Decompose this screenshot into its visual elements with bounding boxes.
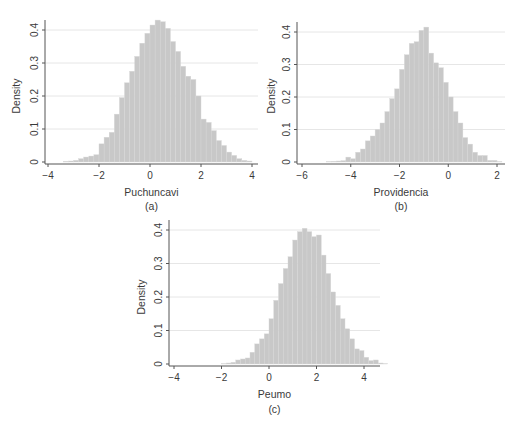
histogram-bar: [247, 161, 252, 162]
histogram-bar: [236, 360, 241, 364]
histogram-bar: [274, 300, 279, 364]
histogram-bar: [191, 80, 196, 163]
x-tick-label: −2: [394, 170, 406, 181]
histogram-bar: [94, 155, 99, 162]
histogram-bar: [201, 119, 206, 162]
x-axis-title: Providencia: [374, 186, 429, 198]
histogram-bar: [170, 42, 175, 162]
histogram-bar: [356, 152, 361, 162]
histogram-bar: [89, 156, 94, 162]
histogram-bar: [68, 161, 73, 162]
y-tick-label: 0.1: [281, 122, 292, 136]
y-tick-label: 0.2: [281, 90, 292, 104]
histogram-bar: [114, 114, 119, 162]
histogram-bar: [390, 99, 395, 162]
histogram-panel-a: 00.10.20.30.4−4−2024Puchuncavi(a)Density: [0, 0, 260, 212]
histogram-bar: [279, 284, 284, 364]
x-tick-label: −2: [93, 170, 105, 181]
x-tick-label: −4: [42, 170, 54, 181]
y-tick-label: 0.1: [29, 122, 40, 136]
histogram-bar: [293, 240, 298, 364]
histogram-bar: [125, 83, 130, 162]
histogram-bar: [448, 97, 453, 162]
histogram-bar: [439, 68, 444, 162]
histogram-bar: [434, 63, 439, 162]
x-tick-label: 0: [147, 170, 153, 181]
histogram-bars: [326, 27, 502, 162]
x-tick-label: 2: [314, 372, 320, 383]
histogram-bar: [302, 228, 307, 364]
histogram-bar: [63, 161, 68, 162]
histogram-bar: [135, 56, 140, 162]
histogram-bar: [400, 69, 405, 162]
histogram-bar: [326, 274, 331, 364]
histogram-panel-c: 00.10.20.30.4−4−2024Peumo(c)Density: [125, 210, 390, 424]
histogram-bar: [331, 292, 336, 364]
histogram-bar: [443, 82, 448, 162]
y-axis-title: Density: [10, 78, 22, 114]
histogram-bar: [241, 359, 246, 364]
x-tick-label: −4: [345, 170, 357, 181]
histogram-bar: [380, 123, 385, 162]
histogram-bar: [345, 329, 350, 364]
histogram-bar: [237, 159, 242, 162]
histogram-bar: [361, 149, 366, 162]
histogram-bar: [350, 339, 355, 364]
histogram-bar: [359, 351, 364, 364]
x-axis-title: Peumo: [258, 388, 291, 400]
y-tick-label: 0.4: [29, 23, 40, 37]
histogram-bar: [99, 144, 104, 162]
histogram-bar: [404, 55, 409, 162]
histogram-bar: [79, 159, 84, 162]
y-tick-label: 0.3: [153, 256, 164, 270]
histogram-bar: [364, 357, 369, 364]
histogram-bar: [370, 136, 375, 162]
histogram-bar: [264, 334, 269, 364]
histogram-bar: [216, 141, 221, 162]
histogram-bar: [74, 160, 79, 162]
histogram-bar: [186, 76, 191, 162]
histogram-bar: [458, 123, 463, 162]
histogram-bar: [211, 131, 216, 162]
histogram-bar: [482, 156, 487, 163]
histogram-bar: [283, 269, 288, 364]
histogram-bar: [409, 43, 414, 162]
histogram-bar: [221, 146, 226, 163]
histogram-bar: [453, 112, 458, 162]
histogram-bar: [104, 137, 109, 162]
histogram-bar: [312, 237, 317, 364]
histogram-bar: [307, 232, 312, 364]
y-tick-label: 0: [29, 159, 40, 165]
histogram-bar: [365, 141, 370, 162]
histogram-bar: [473, 152, 478, 162]
histogram-a: 00.10.20.30.4−4−2024Puchuncavi(a)Density: [0, 0, 260, 212]
y-tick-label: 0: [281, 159, 292, 165]
y-tick-label: 0: [153, 361, 164, 367]
y-tick-label: 0.3: [281, 57, 292, 71]
histogram-bar: [298, 232, 303, 364]
histogram-bar: [487, 160, 492, 162]
histogram-bar: [155, 20, 160, 162]
histogram-bar: [269, 319, 274, 364]
histogram-bar: [165, 28, 170, 162]
x-tick-label: −2: [216, 372, 228, 383]
histogram-bar: [369, 361, 374, 364]
x-tick-label: 2: [494, 170, 500, 181]
x-tick-label: 0: [266, 372, 272, 383]
histogram-bar: [119, 98, 124, 162]
histogram-bar: [260, 339, 265, 364]
histogram-bar: [492, 160, 497, 162]
histogram-bar: [321, 255, 326, 364]
x-tick-label: −6: [296, 170, 308, 181]
histogram-panel-b: 00.10.20.30.4−6−4−202Providencia(b)Densi…: [255, 0, 515, 212]
y-axis-title: Density: [135, 279, 147, 315]
histogram-bar: [340, 319, 345, 364]
histogram-bar: [429, 53, 434, 162]
histogram-c: 00.10.20.30.4−4−2024Peumo(c)Density: [125, 210, 390, 424]
histogram-bar: [181, 66, 186, 162]
histogram-bar: [242, 160, 247, 162]
y-tick-label: 0.2: [153, 290, 164, 304]
histogram-bars: [63, 20, 252, 162]
histogram-bar: [385, 112, 390, 162]
histogram-bar: [374, 360, 379, 364]
